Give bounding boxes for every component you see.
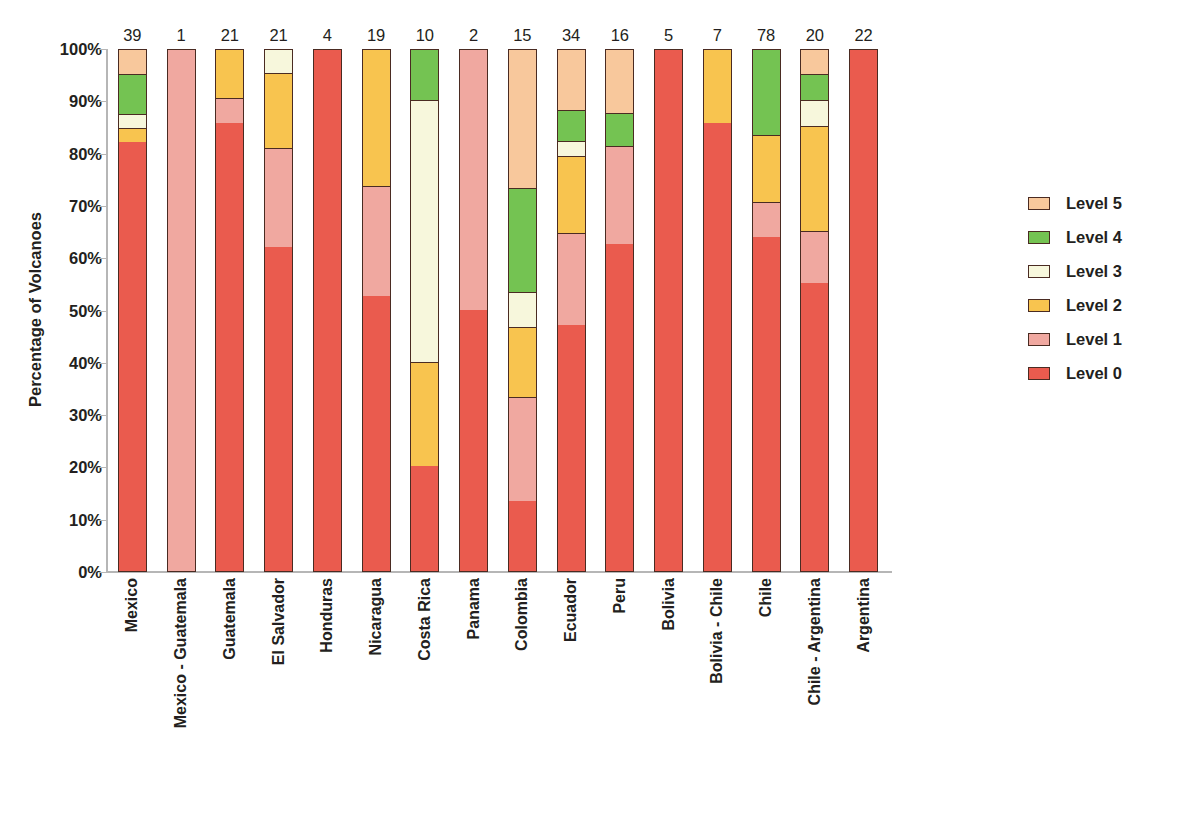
bar-segment[interactable] (557, 49, 586, 110)
volcano-level-stacked-bar-chart: Percentage of Volcanoes 100%90%80%70%60%… (0, 0, 1180, 818)
bar-segment[interactable] (362, 186, 391, 296)
bar-segment[interactable] (508, 49, 537, 188)
bar-segment[interactable] (508, 327, 537, 397)
bar-column[interactable]: 78 (752, 49, 781, 572)
bar-segment[interactable] (703, 49, 732, 123)
bar-segment[interactable] (118, 142, 147, 571)
legend-item[interactable]: Level 0 (1028, 356, 1178, 390)
bar-segment[interactable] (557, 325, 586, 571)
legend-item[interactable]: Level 3 (1028, 254, 1178, 288)
bar-segment[interactable] (459, 49, 488, 310)
bar-column[interactable]: 34 (557, 49, 586, 572)
bar-segment[interactable] (508, 292, 537, 327)
bar-segment[interactable] (118, 114, 147, 128)
bar-segment[interactable] (508, 501, 537, 571)
bar-column[interactable]: 15 (508, 49, 537, 572)
bar-stack[interactable] (362, 49, 391, 572)
bar-segment[interactable] (167, 49, 196, 571)
legend-item[interactable]: Level 1 (1028, 322, 1178, 356)
bar-segment[interactable] (118, 49, 147, 74)
bar-segment[interactable] (557, 110, 586, 141)
bar-column[interactable]: 22 (849, 49, 878, 572)
bar-segment[interactable] (800, 126, 829, 231)
bar-stack[interactable] (703, 49, 732, 572)
bar-column[interactable]: 16 (605, 49, 634, 572)
bar-count-label: 15 (513, 26, 531, 45)
bar-column[interactable]: 1 (167, 49, 196, 572)
bar-segment[interactable] (215, 123, 244, 571)
legend-item[interactable]: Level 2 (1028, 288, 1178, 322)
bar-segment[interactable] (800, 231, 829, 283)
bar-segment[interactable] (605, 146, 634, 244)
bar-segment[interactable] (118, 128, 147, 142)
bar-column[interactable]: 4 (313, 49, 342, 572)
bar-segment[interactable] (362, 296, 391, 571)
bar-segment[interactable] (264, 49, 293, 73)
bar-segment[interactable] (264, 247, 293, 571)
bar-column[interactable]: 39 (118, 49, 147, 572)
x-axis-label: El Salvador (270, 578, 288, 665)
bar-stack[interactable] (459, 49, 488, 572)
bar-segment[interactable] (557, 141, 586, 156)
bar-segment[interactable] (849, 49, 878, 571)
bar-segment[interactable] (410, 362, 439, 467)
legend-item[interactable]: Level 5 (1028, 186, 1178, 220)
bar-segment[interactable] (605, 113, 634, 145)
bar-stack[interactable] (508, 49, 537, 572)
bar-count-label: 4 (323, 26, 332, 45)
bar-stack[interactable] (752, 49, 781, 572)
bar-column[interactable]: 5 (654, 49, 683, 572)
bar-segment[interactable] (410, 466, 439, 571)
bar-count-label: 78 (757, 26, 775, 45)
bar-stack[interactable] (654, 49, 683, 572)
bar-segment[interactable] (215, 98, 244, 123)
bar-segment[interactable] (605, 49, 634, 113)
y-tick-mark (99, 49, 107, 50)
bar-segment[interactable] (800, 283, 829, 571)
bar-segment[interactable] (459, 310, 488, 572)
bar-stack[interactable] (605, 49, 634, 572)
bar-segment[interactable] (362, 49, 391, 186)
bar-segment[interactable] (508, 397, 537, 502)
bar-column[interactable]: 20 (800, 49, 829, 572)
bar-segment[interactable] (410, 100, 439, 362)
bar-segment[interactable] (118, 74, 147, 114)
bar-segment[interactable] (557, 233, 586, 325)
bar-segment[interactable] (800, 49, 829, 74)
bar-segment[interactable] (752, 49, 781, 135)
bar-segment[interactable] (557, 156, 586, 233)
bar-stack[interactable] (313, 49, 342, 572)
bar-segment[interactable] (605, 244, 634, 571)
bar-segment[interactable] (215, 49, 244, 98)
bar-segment[interactable] (264, 73, 293, 148)
bar-stack[interactable] (800, 49, 829, 572)
bar-segment[interactable] (800, 74, 829, 100)
bar-stack[interactable] (167, 49, 196, 572)
bar-segment[interactable] (264, 148, 293, 247)
bar-segment[interactable] (313, 49, 342, 571)
bar-column[interactable]: 7 (703, 49, 732, 572)
bar-segment[interactable] (752, 202, 781, 237)
bar-segment[interactable] (654, 49, 683, 571)
bar-segment[interactable] (752, 237, 781, 571)
bar-column[interactable]: 2 (459, 49, 488, 572)
y-tick-label: 20% (40, 458, 102, 477)
bar-segment[interactable] (703, 123, 732, 571)
bar-stack[interactable] (557, 49, 586, 572)
bar-stack[interactable] (849, 49, 878, 572)
bar-stack[interactable] (215, 49, 244, 572)
y-tick-label: 80% (40, 144, 102, 163)
legend-label: Level 1 (1066, 330, 1122, 349)
bar-stack[interactable] (264, 49, 293, 572)
bar-stack[interactable] (118, 49, 147, 572)
bar-column[interactable]: 19 (362, 49, 391, 572)
bar-segment[interactable] (508, 188, 537, 293)
bar-segment[interactable] (410, 49, 439, 100)
bar-column[interactable]: 10 (410, 49, 439, 572)
bar-column[interactable]: 21 (215, 49, 244, 572)
bar-segment[interactable] (800, 100, 829, 126)
bar-stack[interactable] (410, 49, 439, 572)
legend-item[interactable]: Level 4 (1028, 220, 1178, 254)
bar-segment[interactable] (752, 135, 781, 202)
bar-column[interactable]: 21 (264, 49, 293, 572)
